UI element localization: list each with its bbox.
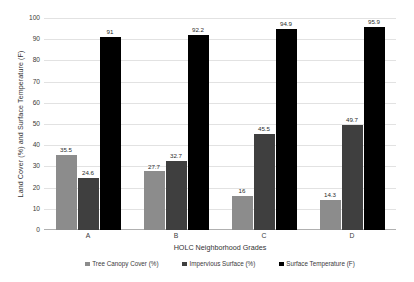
y-axis-tick-labels: 0102030405060708090100 <box>16 18 40 230</box>
legend-label: Impervious Surface (%) <box>189 261 255 267</box>
bar-value-label: 92.2 <box>192 27 204 33</box>
legend-item[interactable]: Tree Canopy Cover (%) <box>85 261 158 267</box>
bar-rect <box>100 37 121 230</box>
y-axis-tick-label: 60 <box>16 100 40 107</box>
bar-rect <box>276 29 297 230</box>
bar-rect <box>232 196 253 230</box>
x-axis-tick-label: A <box>44 232 132 239</box>
y-axis-tick-label: 90 <box>16 36 40 43</box>
bar-group-bars: 35.524.691 <box>44 18 132 230</box>
bar[interactable]: 92.2 <box>188 35 209 230</box>
bar-rect <box>320 200 341 230</box>
bar[interactable]: 24.6 <box>78 178 99 230</box>
bar[interactable]: 91 <box>100 37 121 230</box>
bar-value-label: 45.5 <box>258 126 270 132</box>
bar-rect <box>78 178 99 230</box>
bar-groups: 35.524.69127.732.792.21645.594.914.349.7… <box>44 18 396 230</box>
y-axis-tick-label: 30 <box>16 163 40 170</box>
bar-chart: Land Cover (%) and Surface Temperature (… <box>0 0 414 282</box>
bar[interactable]: 95.9 <box>364 27 385 230</box>
y-axis-tick-label: 40 <box>16 142 40 149</box>
y-axis-tick-label: 0 <box>16 227 40 234</box>
bar-group: 35.524.691 <box>44 18 132 230</box>
y-axis-tick-label: 10 <box>16 206 40 213</box>
legend-swatch-icon <box>182 262 187 267</box>
bar-group: 14.349.795.9 <box>308 18 396 230</box>
y-axis-tick-label: 80 <box>16 57 40 64</box>
bar-rect <box>188 35 209 230</box>
bar-value-label: 24.6 <box>82 170 94 176</box>
x-axis-title: HOLC Neighborhood Grades <box>44 243 396 252</box>
x-axis-tick-label: B <box>132 232 220 239</box>
y-axis-tick-label: 20 <box>16 184 40 191</box>
bar[interactable]: 49.7 <box>342 125 363 230</box>
bar-group-bars: 27.732.792.2 <box>132 18 220 230</box>
bar-group-bars: 14.349.795.9 <box>308 18 396 230</box>
x-axis-tick-label: C <box>220 232 308 239</box>
legend-item[interactable]: Surface Temperature (F) <box>279 261 354 267</box>
bar-value-label: 27.7 <box>148 164 160 170</box>
bar[interactable]: 32.7 <box>166 161 187 230</box>
bar-rect <box>56 155 77 230</box>
legend-swatch-icon <box>85 262 90 267</box>
bar-rect <box>364 27 385 230</box>
y-axis-tick-label: 100 <box>16 15 40 22</box>
bar-value-label: 94.9 <box>280 21 292 27</box>
bar-value-label: 95.9 <box>368 19 380 25</box>
legend-item[interactable]: Impervious Surface (%) <box>182 261 255 267</box>
bar-value-label: 49.7 <box>346 117 358 123</box>
legend: Tree Canopy Cover (%)Impervious Surface … <box>44 261 396 267</box>
bar-group-bars: 1645.594.9 <box>220 18 308 230</box>
bar-value-label: 16 <box>239 188 246 194</box>
bar-value-label: 32.7 <box>170 153 182 159</box>
bar-rect <box>166 161 187 230</box>
x-axis-tick-label: D <box>308 232 396 239</box>
x-axis-tick-labels: ABCD <box>44 232 396 239</box>
bar[interactable]: 45.5 <box>254 134 275 230</box>
y-axis-tick-label: 50 <box>16 121 40 128</box>
bar-value-label: 35.5 <box>60 147 72 153</box>
legend-swatch-icon <box>279 262 284 267</box>
y-axis-tick-label: 70 <box>16 78 40 85</box>
bar-value-label: 91 <box>107 29 114 35</box>
bar-rect <box>254 134 275 230</box>
bar-rect <box>342 125 363 230</box>
bar-group: 1645.594.9 <box>220 18 308 230</box>
legend-label: Surface Temperature (F) <box>286 261 354 267</box>
bar[interactable]: 35.5 <box>56 155 77 230</box>
bar-rect <box>144 171 165 230</box>
plot-area: 35.524.69127.732.792.21645.594.914.349.7… <box>44 18 396 230</box>
bar[interactable]: 27.7 <box>144 171 165 230</box>
bar-group: 27.732.792.2 <box>132 18 220 230</box>
bar-value-label: 14.3 <box>324 192 336 198</box>
bar[interactable]: 16 <box>232 196 253 230</box>
bar[interactable]: 94.9 <box>276 29 297 230</box>
legend-label: Tree Canopy Cover (%) <box>92 261 158 267</box>
bar[interactable]: 14.3 <box>320 200 341 230</box>
